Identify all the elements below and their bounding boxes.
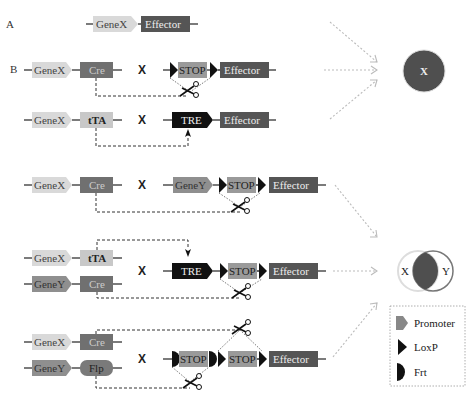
effector-box: Effector: [269, 177, 318, 193]
row-b1: B GeneX Cre X STOP Effector: [10, 62, 276, 98]
svg-text:GeneX: GeneX: [34, 252, 65, 264]
promoter-genex: GeneX: [32, 62, 72, 78]
frt-icon: [172, 351, 180, 367]
svg-text:Frt: Frt: [414, 366, 427, 378]
svg-text:STOP: STOP: [229, 353, 256, 365]
loxp-icon: [259, 263, 267, 279]
svg-text:Effector: Effector: [145, 18, 181, 30]
arrowhead-icon: [185, 249, 191, 257]
svg-text:GeneX: GeneX: [34, 179, 65, 191]
loxp-icon: [220, 263, 228, 279]
scissors-icon: [183, 374, 202, 390]
svg-text:GeneY: GeneY: [34, 278, 65, 290]
loxp-icon: [259, 351, 267, 367]
loxp-icon: [219, 177, 227, 193]
promoter-geney: GeneY: [32, 360, 72, 376]
svg-text:GeneY: GeneY: [175, 179, 206, 191]
effector-box: Effector: [269, 351, 318, 367]
cross-symbol: X: [138, 63, 146, 77]
svg-text:Promoter: Promoter: [414, 317, 455, 329]
scissors-icon: [232, 320, 251, 336]
cre-box: Cre: [80, 177, 113, 193]
svg-text:Effector: Effector: [224, 114, 260, 126]
outcome-venn-diagram: X Y: [398, 251, 453, 291]
section-label-a: A: [6, 18, 14, 30]
row-b3: GeneX Cre X GeneY STOP Effector: [24, 177, 326, 214]
svg-text:tTA: tTA: [88, 114, 106, 126]
scissors-icon: [232, 284, 251, 300]
svg-text:TRE: TRE: [181, 114, 202, 126]
cross-symbol: X: [138, 264, 146, 278]
effector-box: Effector: [220, 62, 269, 78]
svg-text:Effector: Effector: [273, 353, 309, 365]
svg-text:GeneY: GeneY: [34, 362, 65, 374]
svg-text:GeneX: GeneX: [96, 18, 127, 30]
svg-text:Effector: Effector: [273, 179, 309, 191]
cre-box: Cre: [80, 334, 113, 350]
stop-box: STOP: [228, 263, 257, 279]
svg-text:X: X: [420, 65, 428, 77]
svg-text:Effector: Effector: [273, 265, 309, 277]
effector-box: Effector: [269, 263, 318, 279]
svg-text:GeneX: GeneX: [34, 114, 65, 126]
tre-box: TRE: [172, 112, 213, 128]
svg-text:Cre: Cre: [89, 179, 105, 191]
legend: Promoter LoxP Frt: [390, 306, 465, 386]
loxp-icon: [170, 62, 178, 78]
row-b5: GeneX Cre GeneY Flp X STOP STOP: [24, 320, 326, 390]
tta-box: tTA: [80, 112, 113, 128]
svg-text:Y: Y: [442, 265, 450, 277]
tre-box: TRE: [172, 263, 213, 279]
promoter-geney: GeneY: [173, 177, 213, 193]
cre-box: Cre: [80, 276, 113, 292]
scissors-icon: [180, 82, 199, 98]
row-a: A GeneX Effector: [6, 16, 198, 32]
svg-text:STOP: STOP: [228, 179, 255, 191]
section-label-b: B: [10, 63, 17, 75]
stop-box: STOP: [227, 177, 256, 193]
scissors-icon: [231, 198, 250, 214]
outcome-single-circle: X: [403, 50, 445, 92]
svg-text:Flp: Flp: [89, 362, 104, 374]
row-b2: GeneX tTA X TRE Effector: [24, 112, 276, 146]
promoter-genex: GeneX: [32, 112, 72, 128]
cre-box: Cre: [80, 62, 113, 78]
svg-text:STOP: STOP: [180, 353, 207, 365]
svg-text:GeneX: GeneX: [34, 64, 65, 76]
svg-text:LoxP: LoxP: [414, 341, 438, 353]
loxp-icon: [210, 62, 218, 78]
svg-text:Cre: Cre: [89, 64, 105, 76]
effector-box: Effector: [141, 16, 190, 32]
promoter-geney: GeneY: [32, 276, 72, 292]
svg-text:GeneX: GeneX: [34, 336, 65, 348]
frt-icon: [209, 351, 217, 367]
tta-box: tTA: [80, 250, 113, 266]
loxp-icon: [258, 177, 266, 193]
svg-text:STOP: STOP: [179, 64, 206, 76]
cross-symbol: X: [138, 352, 146, 366]
svg-text:Cre: Cre: [89, 336, 105, 348]
intersectional-genetics-diagram: A GeneX Effector B GeneX Cre X S: [0, 0, 473, 399]
row-b4: GeneX tTA GeneY Cre X TRE STOP: [24, 240, 326, 300]
svg-text:STOP: STOP: [229, 265, 256, 277]
svg-text:X: X: [401, 265, 409, 277]
svg-text:Effector: Effector: [224, 64, 260, 76]
flp-box: Flp: [80, 360, 113, 376]
cross-symbol: X: [138, 113, 146, 127]
promoter-genex: GeneX: [93, 16, 138, 32]
promoter-genex: GeneX: [32, 334, 72, 350]
effector-box: Effector: [220, 112, 269, 128]
cross-symbol: X: [138, 178, 146, 192]
svg-text:tTA: tTA: [88, 252, 106, 264]
stop-box: STOP: [179, 351, 208, 367]
svg-text:Cre: Cre: [89, 278, 105, 290]
loxp-icon: [218, 351, 226, 367]
svg-text:TRE: TRE: [181, 265, 202, 277]
stop-box: STOP: [228, 351, 257, 367]
stop-box: STOP: [178, 62, 207, 78]
promoter-genex: GeneX: [32, 250, 72, 266]
outcome-arrows: [324, 22, 377, 357]
promoter-genex: GeneX: [32, 177, 72, 193]
